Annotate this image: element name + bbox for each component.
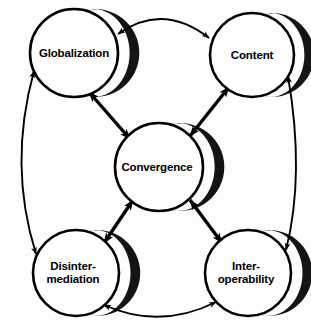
node-interoperability[interactable]: [205, 230, 291, 316]
convergence-diagram: Globalization Content Convergence Disint…: [0, 0, 311, 322]
node-convergence[interactable]: [115, 123, 203, 211]
edge-globalization-convergence: [89, 92, 130, 139]
edge-globalization-disintermediation: [21, 71, 36, 254]
node-circles: [30, 9, 294, 316]
edge-content-convergence: [190, 87, 229, 136]
node-disintermediation[interactable]: [33, 230, 119, 316]
diagram-canvas: [0, 0, 311, 322]
node-globalization[interactable]: [30, 9, 118, 97]
edge-content-interoperability: [286, 76, 296, 250]
edge-interoperability-convergence: [190, 200, 222, 243]
node-content[interactable]: [210, 13, 294, 97]
